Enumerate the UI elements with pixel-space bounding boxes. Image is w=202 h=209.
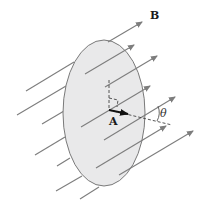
- flux-diagram: B A θ: [0, 0, 202, 209]
- field-line-segment: [35, 137, 65, 155]
- field-line-segment: [57, 158, 70, 166]
- area-vector-label-A: A: [108, 115, 118, 128]
- field-line-arrow: [108, 22, 142, 42]
- field-label-B: B: [150, 9, 159, 22]
- field-line-segment: [56, 176, 82, 191]
- angle-label-theta: θ: [160, 107, 167, 120]
- field-line-segment: [17, 86, 66, 115]
- field-line-segment: [42, 111, 64, 124]
- field-line-segment: [80, 187, 99, 199]
